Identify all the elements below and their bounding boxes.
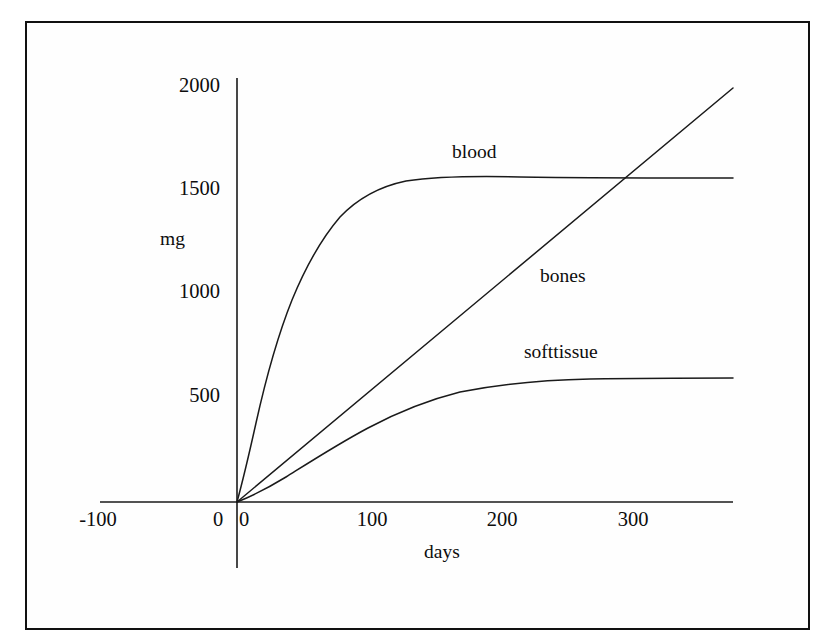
- y-tick-label-1000: 1000: [130, 281, 220, 302]
- figure-container: 2000 1500 1000 500 mg -100 0 0 100 200 3…: [0, 0, 828, 644]
- y-tick-label-2000: 2000: [130, 75, 220, 96]
- x-tick-label-zero-right: 0: [214, 509, 274, 530]
- series-curve-blood: [237, 176, 733, 502]
- x-tick-label-200: 200: [452, 509, 552, 530]
- chart-canvas: [0, 0, 828, 644]
- series-label-softtissue: softtissue: [524, 342, 598, 362]
- x-tick-label-300: 300: [583, 509, 683, 530]
- x-tick-label-neg100: -100: [48, 509, 148, 530]
- x-tick-label-100: 100: [322, 509, 422, 530]
- y-tick-label-500: 500: [130, 385, 220, 406]
- x-axis-title: days: [424, 542, 460, 562]
- series-label-bones: bones: [540, 266, 586, 286]
- series-label-blood: blood: [452, 142, 496, 162]
- y-axis-title: mg: [160, 229, 185, 249]
- y-tick-label-1500: 1500: [130, 178, 220, 199]
